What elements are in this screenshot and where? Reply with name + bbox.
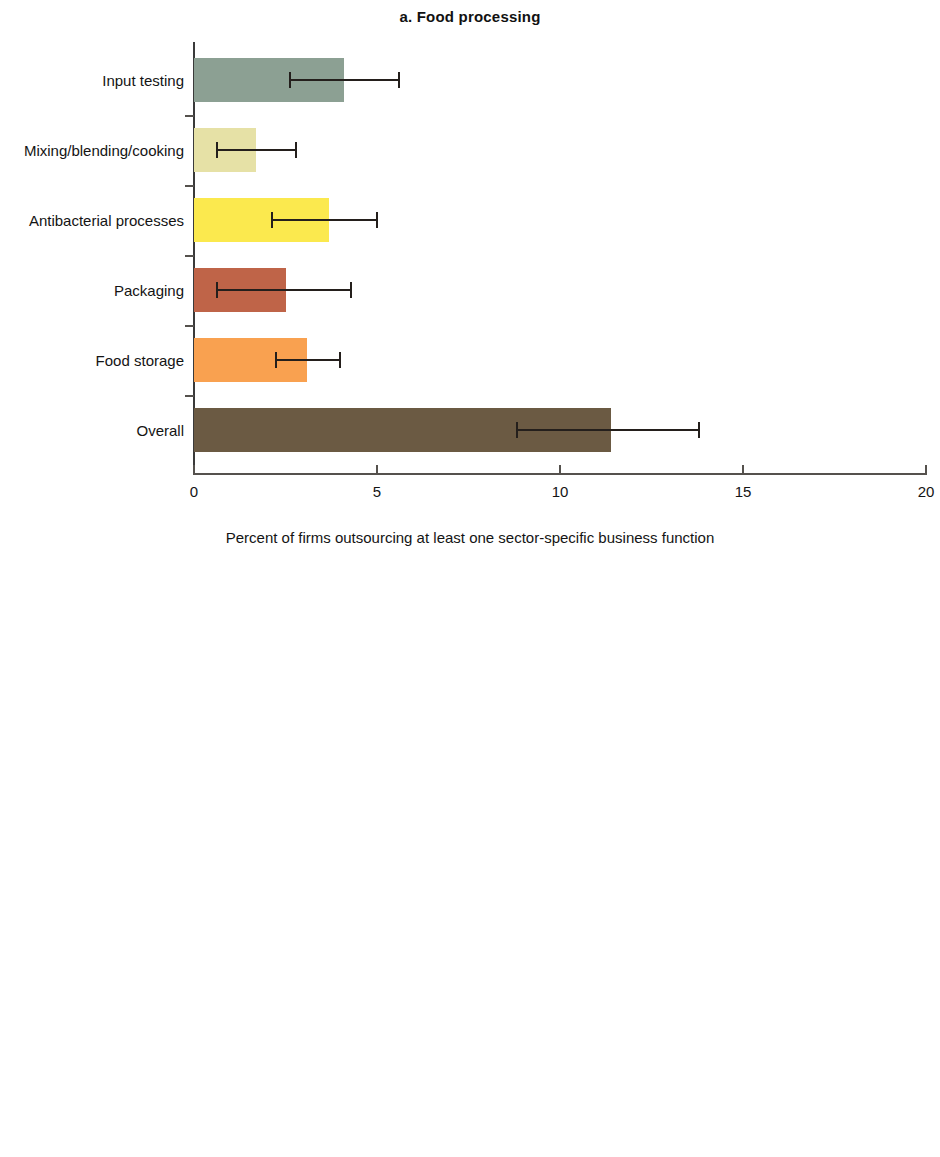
x-axis-tick-label: 10 bbox=[552, 483, 569, 500]
chart-a-x-axis-label: Percent of firms outsourcing at least on… bbox=[0, 529, 940, 546]
y-axis-tick bbox=[185, 325, 194, 327]
error-bar bbox=[289, 79, 399, 81]
y-axis-tick bbox=[185, 395, 194, 397]
error-bar-cap bbox=[376, 212, 378, 228]
y-axis-category-label: Food storage bbox=[96, 352, 184, 369]
x-axis-tick-label: 15 bbox=[735, 483, 752, 500]
error-bar bbox=[516, 429, 699, 431]
chart-a-plot-area: 05101520Input testingMixing/blending/coo… bbox=[0, 0, 940, 580]
y-axis-tick bbox=[185, 185, 194, 187]
y-axis-tick bbox=[185, 115, 194, 117]
error-bar-cap bbox=[350, 282, 352, 298]
y-axis-category-label: Input testing bbox=[102, 72, 184, 89]
error-bar-cap bbox=[271, 212, 273, 228]
y-axis-category-label: Overall bbox=[136, 422, 184, 439]
error-bar bbox=[271, 219, 377, 221]
x-axis-tick bbox=[376, 465, 378, 474]
y-axis-category-label: Antibacterial processes bbox=[29, 212, 184, 229]
x-axis-tick-label: 5 bbox=[373, 483, 381, 500]
y-axis-category-label: Mixing/blending/cooking bbox=[24, 142, 184, 159]
error-bar-cap bbox=[275, 352, 277, 368]
x-axis-tick bbox=[925, 465, 927, 474]
x-axis-tick bbox=[742, 465, 744, 474]
error-bar-cap bbox=[216, 142, 218, 158]
error-bar-cap bbox=[698, 422, 700, 438]
x-axis-tick bbox=[559, 465, 561, 474]
error-bar-cap bbox=[398, 72, 400, 88]
error-bar-cap bbox=[289, 72, 291, 88]
error-bar-cap bbox=[339, 352, 341, 368]
error-bar-cap bbox=[216, 282, 218, 298]
x-axis-tick-label: 20 bbox=[918, 483, 935, 500]
chart-panel-food-processing: a. Food processing 05101520Input testing… bbox=[0, 0, 940, 580]
y-axis-tick bbox=[185, 255, 194, 257]
error-bar-cap bbox=[516, 422, 518, 438]
error-bar bbox=[216, 289, 351, 291]
error-bar bbox=[216, 149, 297, 151]
error-bar-cap bbox=[295, 142, 297, 158]
error-bar bbox=[275, 359, 341, 361]
x-axis-tick-label: 0 bbox=[190, 483, 198, 500]
x-axis-tick bbox=[193, 465, 195, 474]
y-axis-category-label: Packaging bbox=[114, 282, 184, 299]
